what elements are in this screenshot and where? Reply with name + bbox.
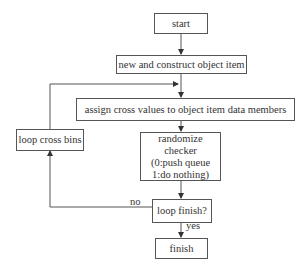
node-start: start — [154, 13, 208, 34]
node-assign: assign cross values to object item data … — [76, 98, 295, 121]
node-loop-bins: loop cross bins — [16, 129, 84, 151]
node-loop-finish-label: loop finish? — [157, 205, 207, 217]
node-randomize: randomize checker (0:push queue 1:do not… — [140, 132, 221, 181]
node-start-label: start — [172, 18, 190, 30]
node-construct: new and construct object item — [116, 55, 247, 74]
node-loop-bins-label: loop cross bins — [19, 134, 82, 146]
edge-label-yes: yes — [186, 220, 200, 231]
node-construct-label: new and construct object item — [119, 59, 245, 71]
node-finish-label: finish — [170, 243, 194, 255]
node-randomize-line1: randomize checker — [141, 133, 220, 157]
node-randomize-line3: 1:do nothing) — [152, 169, 209, 181]
node-assign-label: assign cross values to object item data … — [85, 104, 287, 116]
node-loop-finish: loop finish? — [152, 199, 212, 223]
node-randomize-line2: (0:push queue — [151, 157, 210, 169]
flowchart: start new and construct object item assi… — [0, 0, 300, 268]
edge-label-no: no — [130, 196, 141, 207]
node-finish: finish — [155, 238, 208, 259]
